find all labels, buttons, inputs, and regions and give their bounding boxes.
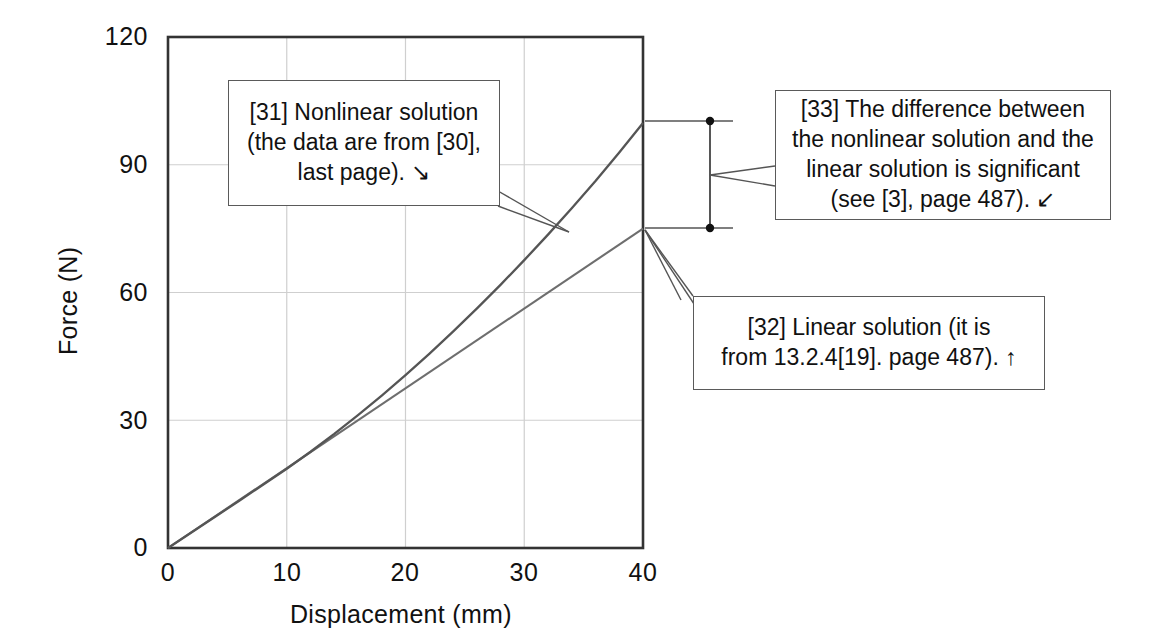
y-tick-label-30: 30 [88, 406, 148, 435]
y-axis-title: Force (N) [54, 247, 83, 355]
callout-33-leader [710, 166, 775, 186]
callout-nonlinear-solution[interactable]: [31] Nonlinear solution (the data are fr… [228, 80, 500, 206]
y-tick-label-60: 60 [88, 278, 148, 307]
x-tick-label-20: 20 [375, 558, 435, 587]
callout-difference-text: [33] The difference between the nonlinea… [792, 95, 1094, 215]
callout-linear-solution-text: [32] Linear solution (it is from 13.2.4[… [721, 313, 1016, 373]
x-axis-title: Displacement (mm) [290, 600, 512, 629]
x-tick-label-30: 30 [494, 558, 554, 587]
difference-dimension-line [645, 117, 733, 232]
callout-difference[interactable]: [33] The difference between the nonlinea… [775, 90, 1111, 220]
x-tick-label-40: 40 [613, 558, 673, 587]
y-tick-label-120: 120 [88, 22, 148, 51]
x-tick-label-10: 10 [257, 558, 317, 587]
x-tick-label-0: 0 [138, 558, 198, 587]
callout-linear-solution[interactable]: [32] Linear solution (it is from 13.2.4[… [693, 296, 1045, 390]
y-tick-label-90: 90 [88, 150, 148, 179]
callout-31-leader [498, 191, 569, 232]
callout-nonlinear-solution-text: [31] Nonlinear solution (the data are fr… [247, 98, 481, 188]
figure-root: 120 90 60 30 0 0 10 20 30 40 Force (N) D… [0, 0, 1164, 642]
